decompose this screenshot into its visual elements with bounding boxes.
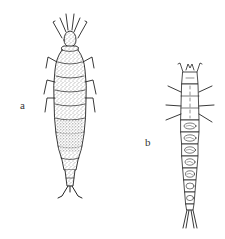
- larva-a-head: [64, 31, 76, 47]
- larva-a: [44, 14, 96, 198]
- larvae-illustration: a b: [0, 0, 225, 239]
- label-b: b: [145, 137, 151, 148]
- larva-b-abdomen: [181, 120, 199, 210]
- larva-b: [166, 63, 214, 228]
- larva-b-cerci: [183, 210, 197, 228]
- label-a: a: [20, 100, 25, 111]
- larvae-drawing: [0, 0, 225, 239]
- larva-b-thorax: [181, 84, 199, 120]
- larva-b-antennae: [178, 63, 202, 72]
- larva-a-cerci: [58, 186, 82, 198]
